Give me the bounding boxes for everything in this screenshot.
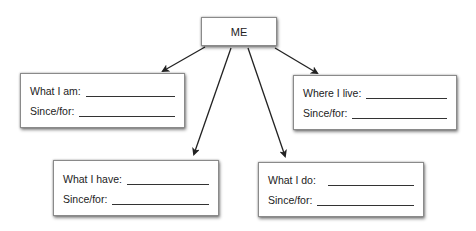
arrow-to-what-i-do [248, 48, 285, 156]
blank-line-input[interactable] [112, 195, 209, 205]
blank-line-input[interactable] [366, 89, 447, 99]
blank-line-input[interactable] [352, 109, 447, 119]
since-label: Since/for: [30, 105, 74, 117]
since-label: Since/for: [63, 193, 107, 205]
field-row: What I do: [268, 174, 414, 186]
since-row: Since/for: [30, 105, 175, 117]
field-label: Where I live: [303, 87, 361, 99]
center-label: ME [231, 26, 248, 38]
field-row: What I have: [63, 173, 209, 185]
since-label: Since/for: [268, 194, 312, 206]
center-node-me: ME [201, 17, 277, 46]
field-row: Where I live: [303, 87, 447, 99]
blank-line-input[interactable] [86, 87, 175, 97]
blank-line-input[interactable] [127, 175, 209, 185]
blank-line-input[interactable] [317, 196, 414, 206]
arrow-to-where-i-live [275, 48, 317, 73]
blank-line-input[interactable] [328, 176, 414, 186]
field-label: What I am: [30, 85, 81, 97]
since-label: Since/for: [303, 107, 347, 119]
since-row: Since/for: [268, 194, 414, 206]
box-what-i-have: What I have: Since/for: [53, 160, 219, 216]
since-row: Since/for: [303, 107, 447, 119]
field-row: What I am: [30, 85, 175, 97]
blank-line-input[interactable] [79, 107, 175, 117]
field-label: What I have: [63, 173, 122, 185]
field-label: What I do: [268, 174, 316, 186]
box-what-i-do: What I do: Since/for: [258, 162, 424, 217]
box-what-i-am: What I am: Since/for: [20, 73, 185, 128]
arrow-to-what-i-am [163, 47, 205, 71]
box-where-i-live: Where I live: Since/for: [293, 75, 457, 130]
arrow-to-what-i-have [194, 48, 231, 154]
since-row: Since/for: [63, 193, 209, 205]
